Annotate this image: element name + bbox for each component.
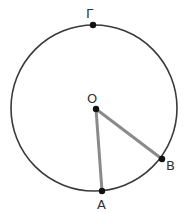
geometry-diagram: Γ O A B [0,0,188,213]
point-gamma [90,22,96,28]
segment-oa [96,109,102,191]
label-a: A [97,197,106,212]
label-gamma: Γ [86,6,94,21]
label-b: B [166,158,175,173]
point-b [159,156,165,162]
point-o [93,106,99,112]
segment-ob [96,109,162,159]
point-a [99,188,105,194]
label-o: O [87,91,97,106]
